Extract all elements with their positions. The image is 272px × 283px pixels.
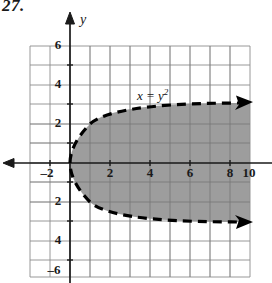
x-tick-label-6: 6: [183, 165, 197, 181]
y-tick-label-2: 2: [51, 115, 65, 131]
x-axis-left-arrow: [3, 159, 14, 168]
curve-equation-base: x = y: [137, 88, 164, 103]
curve-equation-label: x = y2: [137, 87, 168, 104]
x-tick-label-2: 2: [103, 165, 117, 181]
y-tick-label--6: –6: [41, 262, 67, 278]
x-tick-label--2: –2: [34, 165, 60, 181]
y-axis-top-arrow: [66, 12, 75, 24]
y-tick-label--4: 4: [51, 232, 65, 248]
figure-container: 27.: [0, 0, 272, 283]
curve-equation-exponent: 2: [164, 87, 169, 97]
y-tick-label-4: 4: [51, 76, 65, 92]
x-tick-label-10: 10: [238, 165, 260, 181]
y-tick-label-6: 6: [51, 37, 65, 53]
x-tick-label-8: 8: [223, 165, 237, 181]
y-axis-label: y: [80, 12, 86, 28]
x-tick-label-4: 4: [143, 165, 157, 181]
parabola-graph-svg: [0, 0, 272, 283]
y-tick-label--2: 2: [51, 193, 65, 209]
